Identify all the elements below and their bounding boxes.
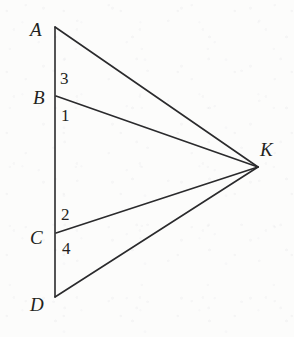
angle-label-3: 3 — [60, 70, 69, 87]
vertex-label-c: C — [30, 228, 43, 247]
vertex-label-k: K — [260, 140, 273, 159]
vertex-label-b: B — [33, 88, 45, 107]
angle-label-4: 4 — [62, 240, 71, 257]
vertex-label-d: D — [30, 295, 44, 314]
segment-bk — [56, 96, 258, 167]
segment-ak — [55, 27, 258, 167]
vertex-label-a: A — [30, 20, 42, 39]
angle-label-1: 1 — [61, 107, 70, 124]
geometry-drawing — [0, 0, 294, 337]
segment-ck — [56, 167, 258, 233]
segment-dk — [55, 167, 258, 297]
angle-label-2: 2 — [61, 206, 70, 223]
geometry-figure: A B C D K 3 1 2 4 — [0, 0, 294, 337]
